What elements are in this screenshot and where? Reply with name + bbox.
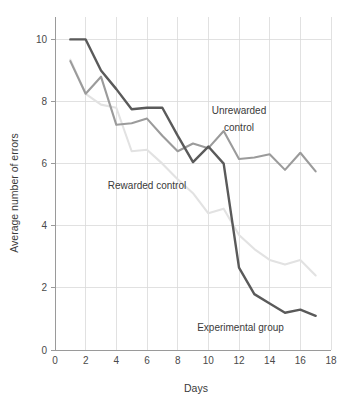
series-annotations: Unrewarded control Rewarded control Expe…: [108, 105, 285, 333]
x-axis-title: Days: [184, 382, 208, 394]
x-tick-labels: 024681012141618: [52, 355, 337, 366]
y-axis-title: Average number of errors: [8, 133, 20, 252]
x-tick-label: 8: [175, 355, 181, 366]
x-tick-label: 14: [264, 355, 276, 366]
x-tick-label: 0: [52, 355, 58, 366]
x-tick-label: 12: [233, 355, 245, 366]
annotation-unrewarded-control-line1: Unrewarded: [212, 105, 266, 116]
y-tick-label: 4: [41, 220, 47, 231]
line-chart: 024681012141618 0246810 Days Average num…: [0, 0, 344, 408]
x-tick-label: 10: [203, 355, 215, 366]
annotation-experimental-group: Experimental group: [197, 322, 284, 333]
y-tick-label: 2: [41, 282, 47, 293]
annotation-rewarded-control: Rewarded control: [108, 180, 186, 191]
tick-marks: [51, 39, 55, 350]
data-series: [70, 39, 315, 315]
series-line-rewarded-control: [70, 60, 315, 276]
axes: [55, 17, 331, 350]
gridlines: [55, 17, 331, 350]
x-tick-label: 16: [295, 355, 307, 366]
y-tick-label: 6: [41, 158, 47, 169]
x-tick-label: 6: [144, 355, 150, 366]
x-tick-label: 4: [114, 355, 120, 366]
x-tick-label: 2: [83, 355, 89, 366]
series-line-experimental-group: [70, 39, 315, 315]
y-tick-label: 10: [36, 34, 48, 45]
y-tick-labels: 0246810: [36, 34, 48, 356]
y-tick-label: 0: [41, 345, 47, 356]
x-tick-label: 18: [325, 355, 337, 366]
y-tick-label: 8: [41, 96, 47, 107]
chart-figure: 024681012141618 0246810 Days Average num…: [0, 0, 344, 408]
annotation-unrewarded-control-line2: control: [224, 122, 254, 133]
